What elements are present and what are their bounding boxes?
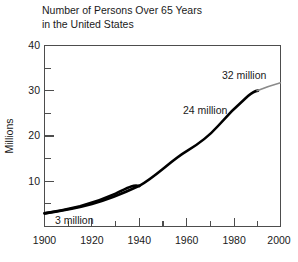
y-tick-label-30: 30 (28, 84, 40, 96)
x-tick-label-2000: 2000 (267, 234, 291, 246)
chart-title-line-2: in the United States (42, 18, 134, 30)
y-tick-label-20: 20 (28, 129, 40, 141)
chart-figure: Number of Persons Over 65 Years in the U… (0, 0, 298, 262)
y-axis-title: Millions (3, 118, 15, 153)
x-tick-label-1940: 1940 (128, 234, 152, 246)
x-tick-label-1900: 1900 (33, 234, 57, 246)
y-tick-label-40: 40 (28, 39, 40, 51)
annotation-start-value: 3 million (55, 214, 94, 226)
x-tick-label-1980: 1980 (222, 234, 246, 246)
chart-canvas: Number of Persons Over 65 Years in the U… (0, 0, 298, 262)
x-tick-label-1960: 1960 (175, 234, 199, 246)
annotation-mid-value: 24 million (183, 104, 228, 116)
y-tick-label-10: 10 (28, 175, 40, 187)
x-tick-label-1920: 1920 (80, 234, 104, 246)
chart-title-line-1: Number of Persons Over 65 Years (42, 4, 202, 16)
annotation-end-value: 32 million (222, 69, 267, 81)
